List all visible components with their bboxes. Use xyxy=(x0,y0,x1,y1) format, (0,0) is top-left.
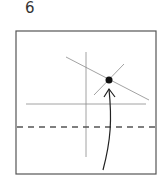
origami-diagram xyxy=(0,0,165,185)
reference-point-dot xyxy=(106,77,113,84)
crease-lines xyxy=(26,52,149,157)
fold-arrow xyxy=(103,89,111,170)
